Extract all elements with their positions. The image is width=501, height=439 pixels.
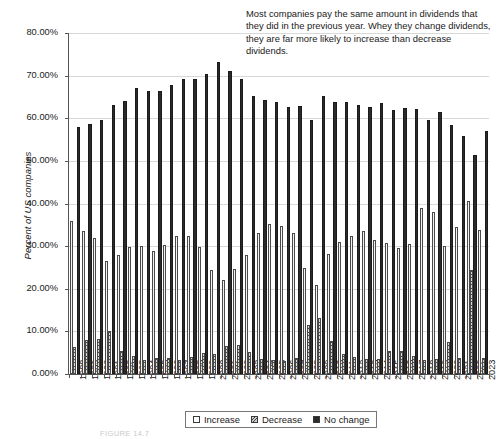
bar-group [385,33,397,374]
bar-no-change [263,100,266,375]
bar-increase [140,246,143,374]
y-tick-mark [65,204,69,205]
bar-no-change [310,120,313,374]
bar-increase [163,245,166,374]
increase-swatch-icon [193,416,200,423]
x-tick-mark [326,374,327,378]
bar-group [327,33,339,374]
x-tick-mark [349,374,350,378]
legend-item-decrease[interactable]: Decrease [251,414,302,425]
bar-group [455,33,467,374]
x-tick-mark [372,374,373,378]
x-tick-mark [291,374,292,378]
bar-group [187,33,199,374]
x-tick-mark [104,374,105,378]
y-tick-mark [65,118,69,119]
bar-group [222,33,234,374]
bar-group [105,33,117,374]
x-tick-mark [221,374,222,378]
bar-increase [128,247,131,374]
x-tick-mark [174,374,175,378]
bar-group [93,33,105,374]
x-tick-mark [361,374,362,378]
y-tick-label: 40.00% [0,198,58,208]
bar-no-change [333,102,336,374]
x-tick-mark [419,374,420,378]
legend-label-increase: Increase [204,414,240,425]
x-tick-mark [69,374,70,378]
bar-no-change [287,107,290,374]
bar-no-change [392,110,395,374]
bar-group [140,33,152,374]
x-tick-mark [396,374,397,378]
bar-group [478,33,490,374]
bar-group [268,33,280,374]
y-tick-label: 0.00% [0,368,58,378]
bar-no-change [88,124,91,374]
bar-group [397,33,409,374]
x-tick-mark [151,374,152,378]
bar-no-change [298,106,301,374]
bar-increase [350,236,353,374]
figure-caption: FIGURE 14.7 [100,429,149,438]
bar-group [373,33,385,374]
bar-no-change [415,109,418,374]
bar-group [467,33,479,374]
bar-group [408,33,420,374]
bar-group [362,33,374,374]
bar-no-change [485,131,488,374]
y-tick-mark [65,161,69,162]
bar-group [315,33,327,374]
y-tick-mark [65,246,69,247]
bar-group [70,33,82,374]
y-tick-label: 80.00% [0,27,58,37]
chart-legend: Increase Decrease No change [185,411,377,428]
bar-no-change [182,79,185,374]
y-tick-mark [65,76,69,77]
x-tick-mark [232,374,233,378]
bar-increase [455,227,458,374]
bar-group [210,33,222,374]
bar-group [280,33,292,374]
bar-increase [280,226,283,374]
bar-increase [362,231,365,374]
bar-increase [420,208,423,374]
x-tick-mark [477,374,478,378]
bar-no-change [205,74,208,375]
x-tick-mark [267,374,268,378]
bar-no-change [450,125,453,374]
bar-group [175,33,187,374]
y-tick-label: 70.00% [0,70,58,80]
x-tick-mark [279,374,280,378]
bar-group [420,33,432,374]
bar-group [350,33,362,374]
x-tick-mark [197,374,198,378]
bar-no-change [380,103,383,374]
bar-group [128,33,140,374]
legend-item-increase[interactable]: Increase [193,414,240,425]
legend-label-decrease: Decrease [262,414,302,425]
bar-increase [175,236,178,374]
bar-no-change [438,112,441,374]
bar-no-change [158,91,161,374]
legend-item-nochange[interactable]: No change [313,414,369,425]
y-tick-label: 60.00% [0,112,58,122]
bar-no-change [403,108,406,374]
bar-group [257,33,269,374]
nochange-swatch-icon [313,416,320,423]
x-tick-mark [256,374,257,378]
bar-group [432,33,444,374]
x-tick-mark [314,374,315,378]
bar-increase [432,212,435,374]
bar-no-change [473,155,476,374]
bar-no-change [123,101,126,374]
x-tick-mark [454,374,455,378]
x-tick-mark [489,374,490,378]
bar-no-change [112,105,115,374]
bar-increase [257,233,260,375]
bar-no-change [357,105,360,374]
bar-increase [373,240,376,374]
bar-increase [268,224,271,374]
decrease-swatch-icon [251,416,258,423]
x-tick-mark [81,374,82,378]
